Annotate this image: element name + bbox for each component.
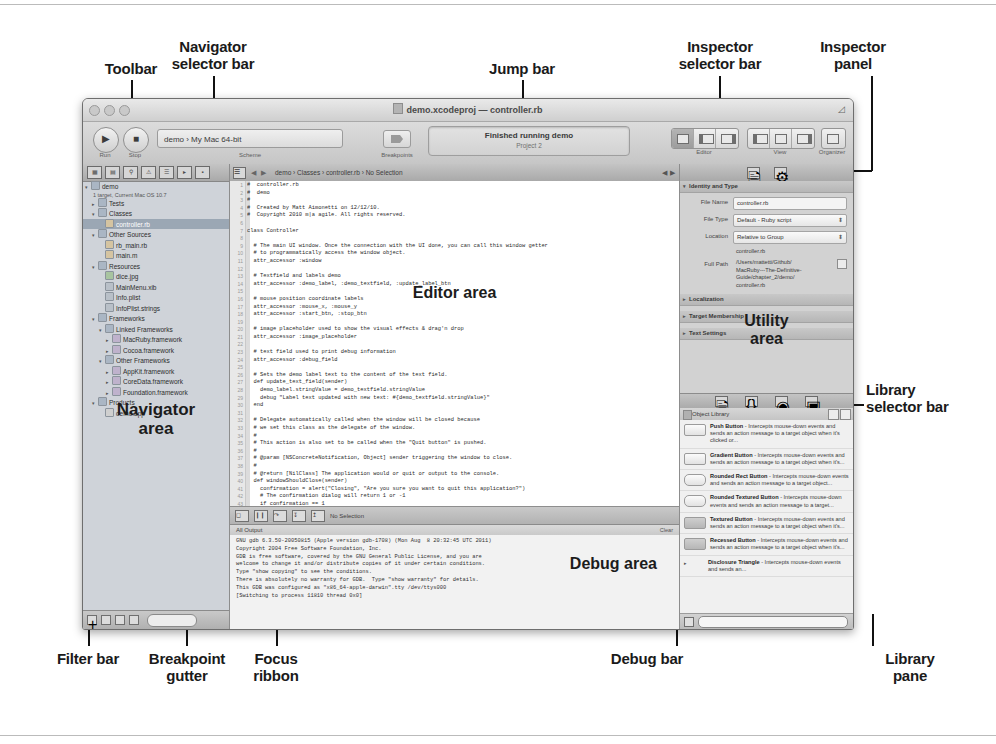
tree-row-frameworks[interactable]: ▾Frameworks xyxy=(83,313,229,324)
assistant-editor-button[interactable] xyxy=(694,129,716,148)
gutter-line-number[interactable]: 29 xyxy=(230,395,245,403)
library-item[interactable]: Textured Button - Intercepts mouse-down … xyxy=(680,513,853,534)
source-control-filter-icon[interactable] xyxy=(115,615,125,625)
gutter-line-number[interactable]: 16 xyxy=(230,296,245,304)
inspector-section-text-settings[interactable]: Text Settings xyxy=(680,328,853,340)
organizer-button[interactable] xyxy=(821,128,846,149)
standard-editor-button[interactable] xyxy=(672,129,694,148)
tree-row-main-m[interactable]: main.m xyxy=(83,250,229,261)
hide-debug-area-icon[interactable]: ◻ xyxy=(235,510,249,522)
related-items-icon[interactable]: ☰ xyxy=(233,167,246,179)
gutter-line-number[interactable]: 12 xyxy=(230,266,245,274)
library-filter-bar[interactable] xyxy=(680,613,853,629)
gutter-line-number[interactable]: 13 xyxy=(230,273,245,281)
tree-row-linked-frameworks[interactable]: ▾Linked Frameworks xyxy=(83,324,229,335)
gutter-line-number[interactable]: 38 xyxy=(230,463,245,471)
gutter-line-number[interactable]: 35 xyxy=(230,440,245,448)
inspector-collapsed-sections[interactable]: LocalizationTarget MembershipText Settin… xyxy=(680,294,853,340)
navigator-selector-bar[interactable]: ▦ ▤ ⚲ ⚠ ☰ ▸ ▪ xyxy=(83,164,229,182)
breakpoint-navigator-icon[interactable]: ▪ xyxy=(195,166,210,179)
debug-bar[interactable]: ◻ ❙❙ ↷ ↧ ↥ No Selection xyxy=(230,507,679,525)
test-navigator-icon[interactable]: ☰ xyxy=(159,166,174,179)
gutter-line-number[interactable]: 22 xyxy=(230,341,245,349)
gutter-line-number[interactable]: 27 xyxy=(230,379,245,387)
tree-row-macruby-framework[interactable]: ▸MacRuby.framework xyxy=(83,334,229,345)
tree-row-other-sources[interactable]: ▾Other Sources xyxy=(83,229,229,240)
tree-row-project[interactable]: ▾demo xyxy=(83,181,229,192)
library-list-view-icon[interactable] xyxy=(828,409,839,420)
gutter-line-number[interactable]: 40 xyxy=(230,478,245,486)
tree-row-dice-jpg[interactable]: dice.jpg xyxy=(83,271,229,282)
stop-button[interactable]: ■ xyxy=(123,127,149,153)
gutter-line-number[interactable]: 20 xyxy=(230,326,245,334)
tree-row-resources[interactable]: ▾Resources xyxy=(83,261,229,272)
file-inspector-icon[interactable]: 🖹 xyxy=(747,167,760,179)
library-item[interactable]: Gradient Button - Intercepts mouse-down … xyxy=(680,449,853,470)
object-library-icon[interactable]: ◉ xyxy=(775,396,788,407)
tree-row-mainmenu-xib[interactable]: MainMenu.xib xyxy=(83,282,229,293)
quick-help-inspector-icon[interactable]: ⚙ xyxy=(774,167,787,179)
jump-bar-right-controls[interactable]: ◀ ▶ xyxy=(662,169,679,177)
tree-row-controller-rb[interactable]: controller.rb xyxy=(83,219,229,230)
gutter-line-number[interactable]: 2 xyxy=(230,190,245,198)
library-filter-input[interactable] xyxy=(698,616,848,628)
library-info-icon[interactable] xyxy=(684,617,694,627)
gutter-line-number[interactable]: 41 xyxy=(230,486,245,494)
jump-bar[interactable]: ☰ ◀ ▶ demo › Classes › controller.rb › N… xyxy=(230,164,679,182)
source-editor[interactable]: 1234567891011121314151617181920212223242… xyxy=(230,181,679,507)
gutter-line-number[interactable]: 42 xyxy=(230,493,245,501)
file-template-library-icon[interactable]: 🗎 xyxy=(715,396,728,407)
code-text[interactable]: # controller.rb # demo # # Created by Ma… xyxy=(247,182,679,507)
inspector-selector-bar[interactable]: 🖹 ⚙ xyxy=(680,164,853,182)
library-header-title[interactable]: Object Library xyxy=(692,411,729,417)
tree-row-other-frameworks[interactable]: ▾Other Frameworks xyxy=(83,355,229,366)
editor-mode-segmented-control[interactable] xyxy=(671,128,739,149)
library-grid-view-icon[interactable] xyxy=(840,409,851,420)
inspector-panel[interactable]: Identity and Type File Namecontroller.rb… xyxy=(680,181,853,393)
tree-row-cocoa-framework[interactable]: ▸Cocoa.framework xyxy=(83,345,229,356)
project-navigator-tree[interactable]: ▾demo 1 target, Current Mac OS 10.7 ▸Tes… xyxy=(83,181,229,611)
gutter-line-number[interactable]: 28 xyxy=(230,387,245,395)
back-arrow-icon[interactable]: ◀ xyxy=(251,169,256,177)
inspector-section-identity-and-type[interactable]: Identity and Type xyxy=(680,181,853,193)
reveal-in-finder-button[interactable] xyxy=(837,259,847,269)
inspector-row-value[interactable]: Relative to Group xyxy=(733,231,847,244)
tree-row-infoplist-strings[interactable]: InfoPlist.strings xyxy=(83,303,229,314)
debug-navigator-icon[interactable]: ▸ xyxy=(177,166,192,179)
gutter-line-number[interactable]: 7 xyxy=(230,228,245,236)
gutter-line-number[interactable]: 4 xyxy=(230,205,245,213)
step-over-icon[interactable]: ↷ xyxy=(273,510,287,522)
inspector-row-value[interactable]: Default - Ruby script xyxy=(733,214,847,227)
gutter-line-number[interactable]: 23 xyxy=(230,349,245,357)
filter-bar[interactable]: + xyxy=(83,610,229,629)
organizer-button-cell[interactable] xyxy=(822,129,843,148)
tree-row-appkit-framework[interactable]: ▸AppKit.framework xyxy=(83,366,229,377)
gutter-line-number[interactable]: 14 xyxy=(230,281,245,289)
filter-input[interactable] xyxy=(147,614,197,627)
gutter-line-number[interactable]: 11 xyxy=(230,258,245,266)
previous-file-icon[interactable]: ◀ xyxy=(662,169,667,177)
gutter-line-number[interactable]: 18 xyxy=(230,311,245,319)
inspector-section-target-membership[interactable]: Target Membership xyxy=(680,311,853,323)
library-item[interactable]: Recessed Button - Intercepts mouse-down … xyxy=(680,534,853,555)
tree-rows[interactable]: ▸Tests▾Classescontroller.rb▾Other Source… xyxy=(83,198,229,419)
gutter-line-number[interactable]: 31 xyxy=(230,410,245,418)
gutter-line-number[interactable]: 19 xyxy=(230,319,245,327)
gutter-line-number[interactable]: 1 xyxy=(230,182,245,190)
gutter-line-number[interactable]: 5 xyxy=(230,212,245,220)
step-out-icon[interactable]: ↥ xyxy=(311,510,325,522)
gutter-line-number[interactable]: 26 xyxy=(230,372,245,380)
thread-popup[interactable]: No Selection xyxy=(330,513,364,519)
inspector-rows[interactable]: File Namecontroller.rbFile TypeDefault -… xyxy=(680,197,853,289)
library-item[interactable]: ▸Disclosure Triangle - Intercepts mouse-… xyxy=(680,556,853,577)
version-editor-button[interactable] xyxy=(716,129,737,148)
gutter-line-number[interactable]: 3 xyxy=(230,197,245,205)
step-into-icon[interactable]: ↧ xyxy=(292,510,306,522)
project-navigator-icon[interactable]: ▦ xyxy=(87,166,102,179)
fullscreen-icon[interactable]: ◿ xyxy=(838,104,848,114)
gutter-line-number[interactable]: 17 xyxy=(230,304,245,312)
recent-filter-icon[interactable] xyxy=(101,615,111,625)
gutter-line-number[interactable]: 34 xyxy=(230,433,245,441)
breadcrumb[interactable]: demo › Classes › controller.rb › No Sele… xyxy=(275,169,403,176)
gutter-line-number[interactable]: 36 xyxy=(230,448,245,456)
